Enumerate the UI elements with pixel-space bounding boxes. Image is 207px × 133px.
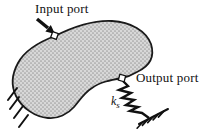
output-port-label: Output port [136,71,199,85]
spring-zigzag-icon [119,81,149,118]
input-port-label: Input port [35,2,89,16]
input-port-marker [51,32,59,40]
diagram-canvas [0,0,207,133]
spring-stiffness-label: ks [111,95,120,112]
mechanical-structure-diagram: Input port Output port ks [0,0,207,133]
spring-stiffness-subscript: s [116,100,120,110]
output-port-marker [118,74,125,81]
flexible-structure-blob [13,21,153,118]
